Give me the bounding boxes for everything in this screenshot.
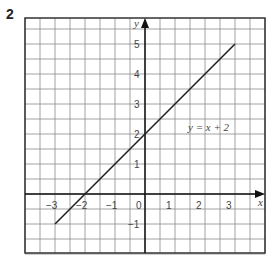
x-tick-label: 2	[196, 200, 202, 211]
x-axis-label: x	[257, 196, 263, 208]
y-tick-label: 2	[134, 129, 140, 140]
y-tick-label: 1	[134, 159, 140, 170]
y-axis-arrow-icon	[141, 18, 149, 28]
y-tick-label: 3	[134, 99, 140, 110]
x-tick-label: −1	[106, 200, 118, 211]
x-tick-label: −2	[76, 200, 88, 211]
axis-labels: −3−2−10123−112345	[46, 39, 232, 230]
x-tick-label: −3	[46, 200, 58, 211]
y-tick-label: −1	[128, 219, 140, 230]
y-tick-label: 4	[134, 69, 140, 80]
graph: −3−2−10123−112345 x y y = x + 2	[0, 0, 276, 268]
y-tick-label: 5	[134, 39, 140, 50]
x-tick-label: 1	[166, 200, 172, 211]
y-axis-label: y	[133, 17, 139, 29]
x-tick-label: 3	[226, 200, 232, 211]
line-equation-label: y = x + 2	[187, 121, 230, 133]
x-tick-label: 0	[136, 200, 142, 211]
